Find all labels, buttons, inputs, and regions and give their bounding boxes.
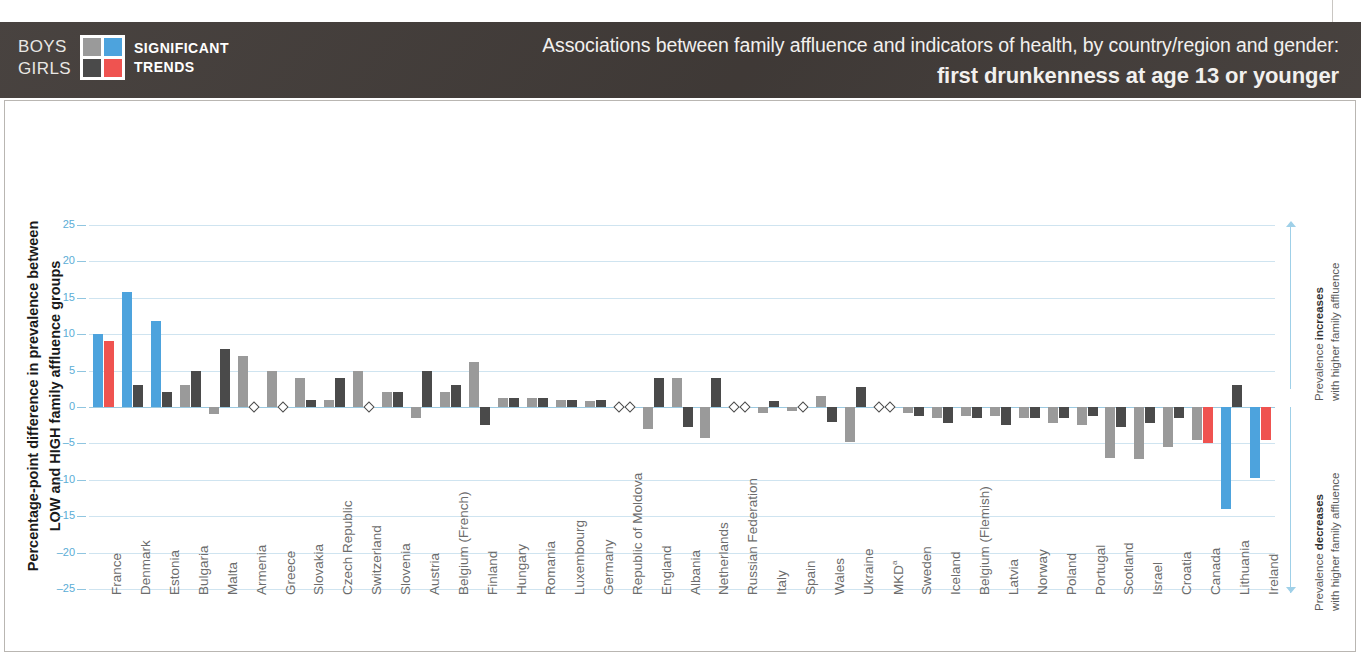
bar-boys-significant <box>122 292 132 407</box>
swatch-girls-significant <box>104 59 122 77</box>
y-tick-label-25: 25 <box>43 219 75 230</box>
bar-boys <box>816 396 826 407</box>
bar-boys <box>672 378 682 407</box>
legend-trends-word: TRENDS <box>134 58 229 77</box>
bar-girls <box>914 407 924 416</box>
bar-boys <box>295 378 305 407</box>
y-tick-label--20: –20 <box>43 547 75 558</box>
x-axis-label: Estonia <box>167 550 182 595</box>
chart-frame: Percentage-point difference in prevalenc… <box>4 100 1356 652</box>
x-axis-label: Italy <box>774 570 789 595</box>
bar-girls <box>769 401 779 407</box>
bar-boys <box>700 407 710 438</box>
bar-boys-significant <box>1221 407 1231 509</box>
swatch-boys-nonsignificant <box>83 38 101 56</box>
y-tick-mark--20 <box>77 553 86 554</box>
x-axis-label: Latvia <box>1006 559 1021 595</box>
bar-boys <box>1019 407 1029 418</box>
bar-boys <box>585 401 595 407</box>
y-tick-mark--25 <box>77 589 86 590</box>
gridline--5 <box>89 443 1275 444</box>
chart-title-line1: Associations between family affluence an… <box>339 31 1339 60</box>
x-axis-label: Croatia <box>1179 551 1194 595</box>
y-tick-label--25: –25 <box>43 583 75 594</box>
increase-arrow-head <box>1286 221 1296 227</box>
y-tick-label--10: –10 <box>43 474 75 485</box>
x-axis-label: Belgium (Flemish) <box>977 486 992 595</box>
y-tick-label-0: 0 <box>43 401 75 412</box>
gridline-10 <box>89 334 1275 335</box>
x-axis-label: Slovakia <box>311 544 326 595</box>
x-axis-label: Lithuania <box>1237 540 1252 595</box>
bar-boys <box>556 400 566 407</box>
y-tick-label-10: 10 <box>43 328 75 339</box>
no-data-diamond-girls <box>740 401 751 412</box>
swatch-boys-significant <box>104 38 122 56</box>
x-axis-label: Hungary <box>514 544 529 595</box>
y-tick-label--15: –15 <box>43 510 75 521</box>
bar-girls <box>191 371 201 407</box>
x-axis-label: Greece <box>283 551 298 595</box>
bar-girls <box>567 400 577 407</box>
increase-arrow-line <box>1290 227 1291 389</box>
no-data-diamond-girls <box>248 401 259 412</box>
bar-girls <box>538 398 548 407</box>
bar-boys <box>382 392 392 407</box>
bar-boys-significant <box>151 321 161 407</box>
x-axis-label: Norway <box>1035 549 1050 595</box>
bar-boys <box>1077 407 1087 425</box>
legend-boys-label: BOYS <box>18 36 71 58</box>
x-axis-label: Bulgaria <box>196 545 211 595</box>
y-tick-mark--5 <box>77 443 86 444</box>
x-axis-label: Finland <box>485 551 500 595</box>
bar-boys <box>903 407 913 413</box>
decrease-note-line2: with higher family affluence <box>1327 411 1344 611</box>
x-axis-label: Ukraine <box>861 548 876 595</box>
x-axis-label: Scotland <box>1121 542 1136 595</box>
no-data-diamond-girls <box>277 401 288 412</box>
y-tick-label-5: 5 <box>43 365 75 376</box>
bar-boys <box>643 407 653 429</box>
x-axis-label: Austria <box>427 553 442 595</box>
bar-boys <box>324 400 334 407</box>
bar-boys <box>990 407 1000 416</box>
gridline-25 <box>89 225 1275 226</box>
page-edge-rule <box>1332 0 1333 22</box>
bar-girls-significant <box>104 341 114 407</box>
y-tick-mark--10 <box>77 480 86 481</box>
x-axis-label: Germany <box>601 539 616 595</box>
decrease-arrow-head <box>1286 587 1296 593</box>
bar-boys <box>238 356 248 407</box>
x-axis-label: Slovenia <box>398 543 413 595</box>
bar-boys <box>527 398 537 407</box>
legend-girls-label: GIRLS <box>18 58 71 80</box>
y-tick-mark-10 <box>77 334 86 335</box>
bar-boys <box>353 371 363 407</box>
bar-girls <box>1116 407 1126 427</box>
bar-boys <box>1048 407 1058 423</box>
y-tick-mark-20 <box>77 261 86 262</box>
chart-title: Associations between family affluence an… <box>339 31 1339 92</box>
legend: BOYS GIRLS SIGNIFICANT TRENDS <box>18 35 229 80</box>
y-tick-label--5: –5 <box>43 437 75 448</box>
x-axis-label: England <box>659 545 674 595</box>
bar-girls <box>335 378 345 407</box>
bar-girls <box>1174 407 1184 418</box>
bar-boys <box>440 392 450 407</box>
x-axis-label: France <box>109 553 124 595</box>
bar-boys <box>845 407 855 442</box>
bar-girls-significant <box>1203 407 1213 443</box>
increase-note-line1: Prevalence increases <box>1311 201 1328 401</box>
y-axis-title-text: Percentage-point difference in prevalenc… <box>23 211 67 581</box>
chart-header: BOYS GIRLS SIGNIFICANT TRENDS Associatio… <box>0 22 1361 98</box>
x-axis-label: Romania <box>543 541 558 595</box>
bar-girls <box>972 407 982 418</box>
x-axis-label: Republic of Moldova <box>630 473 645 595</box>
bar-girls <box>1145 407 1155 423</box>
bar-girls <box>162 392 172 407</box>
bar-girls <box>711 378 721 407</box>
y-tick-mark-0 <box>77 407 86 408</box>
bar-girls <box>596 400 606 407</box>
x-axis-label: Armenia <box>254 545 269 595</box>
x-axis-label: Wales <box>832 558 847 595</box>
